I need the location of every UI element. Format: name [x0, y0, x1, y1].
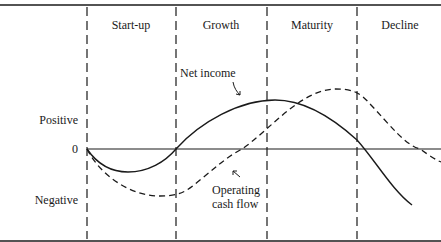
operating-cash-flow-arrow [233, 171, 240, 177]
annotation-net-income: Net income [180, 66, 236, 80]
net-income-arrow [233, 82, 240, 95]
stage-label-maturity: Maturity [267, 18, 357, 32]
stage-label-growth: Growth [176, 18, 266, 32]
y-label-zero: 0 [0, 142, 78, 156]
stage-label-startup: Start-up [86, 18, 176, 32]
y-label-positive: Positive [0, 113, 78, 127]
annotation-ocf-line2: cash flow [212, 197, 258, 211]
stage-label-decline: Decline [355, 18, 441, 32]
y-label-negative: Negative [0, 193, 78, 207]
annotation-ocf-line1: Operating [212, 183, 260, 197]
